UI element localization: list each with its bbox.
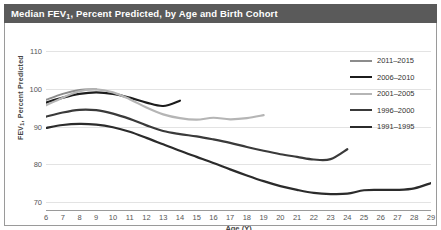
legend-label: 2001–2005 <box>377 89 415 98</box>
series-line <box>46 124 431 194</box>
legend-item: 2011–2015 <box>350 56 415 65</box>
y-tick-label: 90 <box>34 122 42 131</box>
x-tick-label: 6 <box>44 213 48 222</box>
x-tick-label: 21 <box>293 213 301 222</box>
figure-container: Median FEV1, Percent Predicted, by Age a… <box>0 0 441 230</box>
chart-frame: FEV1, Percent Predicted 708090100110 678… <box>4 23 437 226</box>
x-tick-label: 15 <box>192 213 200 222</box>
legend-swatch <box>350 60 372 62</box>
x-tick-label: 14 <box>176 213 184 222</box>
x-tick-label: 27 <box>393 213 401 222</box>
legend: 2011–20152006–20102001–20051996–20001991… <box>350 56 415 131</box>
series-line <box>46 110 347 161</box>
legend-label: 2006–2010 <box>377 73 415 82</box>
x-tick-label: 25 <box>360 213 368 222</box>
y-tick-label: 100 <box>29 84 42 93</box>
y-tick-label: 70 <box>34 198 42 207</box>
series-line <box>46 92 180 106</box>
x-tick-label: 9 <box>94 213 98 222</box>
chart-title-bar: Median FEV1, Percent Predicted, by Age a… <box>4 4 437 23</box>
y-tick-label: 110 <box>30 46 42 55</box>
x-axis-line <box>46 210 431 211</box>
x-tick-label: 22 <box>310 213 318 222</box>
legend-label: 2011–2015 <box>377 56 414 65</box>
x-tick-label: 28 <box>410 213 418 222</box>
x-tick-label: 12 <box>142 213 150 222</box>
x-tick-label: 29 <box>427 213 435 222</box>
x-axis-title: Age (Y) <box>46 224 431 230</box>
x-tick-label: 20 <box>276 213 284 222</box>
x-tick-label: 7 <box>61 213 65 222</box>
x-tick-label: 24 <box>343 213 351 222</box>
legend-swatch <box>350 109 372 111</box>
legend-swatch <box>350 93 372 95</box>
x-tick-label: 8 <box>77 213 81 222</box>
page-title: Median FEV1, Percent Predicted, by Age a… <box>4 8 278 20</box>
legend-item: 2001–2005 <box>350 89 415 98</box>
legend-item: 2006–2010 <box>350 73 415 82</box>
legend-item: 1991–1995 <box>350 122 415 131</box>
legend-label: 1991–1995 <box>377 122 415 131</box>
x-tick-label: 23 <box>326 213 334 222</box>
x-tick-label: 18 <box>243 213 251 222</box>
legend-swatch <box>350 126 372 128</box>
legend-swatch <box>350 76 372 78</box>
x-tick-label: 17 <box>226 213 234 222</box>
x-tick-label: 26 <box>377 213 385 222</box>
x-tick-label: 19 <box>259 213 267 222</box>
legend-item: 1996–2000 <box>350 106 415 115</box>
x-tick-label: 10 <box>109 213 117 222</box>
x-tick-label: 13 <box>159 213 167 222</box>
y-axis-title: FEV1, Percent Predicted <box>17 55 25 140</box>
y-tick-label: 80 <box>34 160 42 169</box>
x-tick-label: 11 <box>126 213 134 222</box>
x-tick-label: 16 <box>209 213 217 222</box>
legend-label: 1996–2000 <box>377 106 415 115</box>
